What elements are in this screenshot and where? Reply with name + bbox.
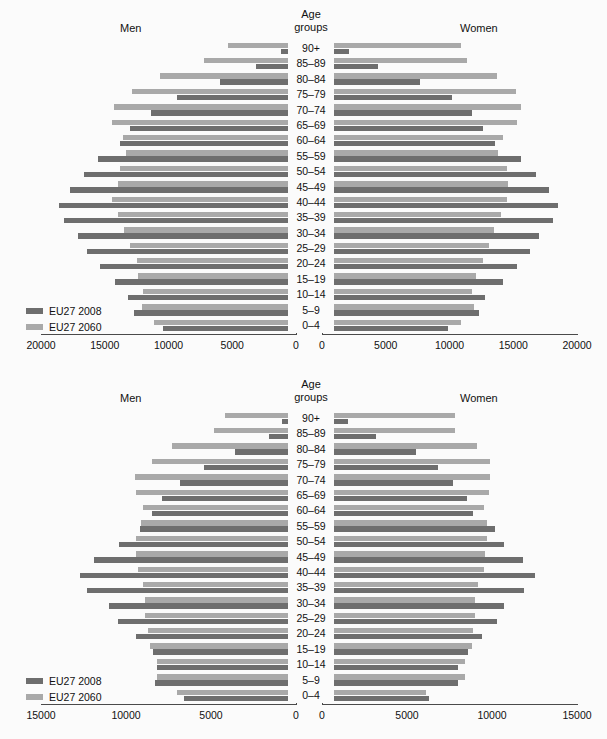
women-header-bottom: Women: [460, 392, 498, 404]
bar-men-2060: [148, 628, 296, 633]
bar-women-2008: [322, 264, 517, 269]
bar-men-2060: [138, 567, 296, 572]
pyramid-row: 65–69: [0, 488, 607, 503]
bar-women-2060: [322, 289, 472, 294]
bar-women-2008: [322, 603, 504, 608]
men-bars-85–89: [41, 426, 296, 441]
bar-women-2008: [322, 187, 549, 192]
women-bars-45–49: [322, 180, 577, 195]
bar-men-2008: [136, 634, 296, 639]
women-bars-70–74: [322, 103, 577, 118]
bar-men-2008: [220, 79, 297, 84]
women-bars-25–29: [322, 611, 577, 626]
age-group-label: 75–79: [288, 87, 334, 102]
age-group-label: 0–4: [288, 688, 334, 703]
women-header-top: Women: [460, 22, 498, 34]
pyramid-row: 25–29: [0, 241, 607, 256]
bar-women-2008: [322, 557, 523, 562]
pyramid-row: 35–39: [0, 210, 607, 225]
bar-women-2060: [322, 120, 517, 125]
bar-men-2060: [132, 89, 296, 94]
bar-women-2008: [322, 156, 521, 161]
age-group-label: 30–34: [288, 596, 334, 611]
bar-women-2060: [322, 43, 461, 48]
women-axis-line-top: [322, 334, 578, 335]
x-tick-men: 5000: [199, 709, 222, 721]
men-bars-65–69: [41, 488, 296, 503]
legend-item-2008-bottom: EU27 2008: [26, 675, 102, 691]
age-group-label: 75–79: [288, 457, 334, 472]
bar-men-2008: [118, 619, 297, 624]
bar-men-2060: [154, 320, 296, 325]
age-group-label: 85–89: [288, 426, 334, 441]
bar-women-2060: [322, 135, 503, 140]
x-tick-men: 15000: [26, 709, 55, 721]
x-tick-women: 10000: [435, 339, 464, 351]
pyramid-row: 70–74: [0, 473, 607, 488]
age-group-label: 70–74: [288, 473, 334, 488]
men-bars-75–79: [41, 457, 296, 472]
bar-women-2060: [322, 89, 516, 94]
women-bars-55–59: [322, 519, 577, 534]
bar-women-2008: [322, 79, 420, 84]
women-bars-45–49: [322, 550, 577, 565]
women-bars-15–19: [322, 272, 577, 287]
x-tick-men: 20000: [26, 339, 55, 351]
pyramid-row: 65–69: [0, 118, 607, 133]
bar-men-2008: [177, 95, 296, 100]
bar-men-2060: [118, 212, 297, 217]
legend-top: EU27 2008 EU27 2060: [26, 305, 102, 337]
men-bars-50–54: [41, 164, 296, 179]
bar-women-2008: [322, 126, 483, 131]
women-axis-line-bottom: [322, 704, 578, 705]
bar-women-2060: [322, 659, 465, 664]
men-bars-20–24: [41, 256, 296, 271]
age-groups-header-top: Age groups: [288, 8, 334, 33]
bar-women-2060: [322, 536, 487, 541]
age-group-label: 5–9: [288, 303, 334, 318]
pyramid-row: 40–44: [0, 565, 607, 580]
bar-women-2008: [322, 141, 495, 146]
bar-men-2008: [87, 588, 296, 593]
age-group-label: 45–49: [288, 550, 334, 565]
bar-men-2008: [115, 279, 296, 284]
age-group-label: 35–39: [288, 580, 334, 595]
women-bars-75–79: [322, 457, 577, 472]
bar-men-2008: [162, 496, 296, 501]
age-group-label: 20–24: [288, 626, 334, 641]
pyramid-row: 25–29: [0, 611, 607, 626]
bar-men-2008: [151, 110, 296, 115]
men-bars-70–74: [41, 473, 296, 488]
bar-men-2060: [130, 243, 296, 248]
men-bars-70–74: [41, 103, 296, 118]
bar-women-2008: [322, 526, 495, 531]
bar-women-2060: [322, 551, 485, 556]
bar-men-2060: [138, 273, 296, 278]
bar-men-2060: [124, 227, 296, 232]
men-bars-65–69: [41, 118, 296, 133]
legend-swatch-2008-icon: [26, 678, 43, 684]
bar-men-2060: [118, 181, 297, 186]
bar-women-2060: [322, 166, 507, 171]
bar-men-2060: [150, 643, 296, 648]
x-tick-women: 15000: [562, 709, 591, 721]
men-bars-35–39: [41, 210, 296, 225]
bar-men-2060: [204, 58, 296, 63]
bar-women-2060: [322, 582, 478, 587]
pyramid-row: 90+: [0, 41, 607, 56]
bar-women-2060: [322, 304, 474, 309]
legend-label-2008: EU27 2008: [49, 675, 102, 687]
bar-women-2008: [322, 511, 473, 516]
pyramid-row: 70–74: [0, 103, 607, 118]
men-header-bottom: Men: [120, 392, 141, 404]
men-bars-90+: [41, 411, 296, 426]
x-tick-women: 15000: [499, 339, 528, 351]
bar-men-2008: [80, 573, 296, 578]
men-bars-45–49: [41, 180, 296, 195]
bar-women-2008: [322, 542, 504, 547]
men-bars-80–84: [41, 442, 296, 457]
age-group-label: 10–14: [288, 287, 334, 302]
bar-women-2008: [322, 634, 482, 639]
bar-men-2008: [100, 264, 296, 269]
bar-women-2060: [322, 567, 484, 572]
